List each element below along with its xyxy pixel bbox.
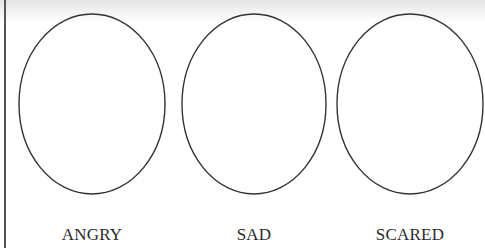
face-oval-sad xyxy=(182,14,326,194)
label-sad: SAD xyxy=(237,225,272,245)
label-angry: ANGRY xyxy=(62,225,123,245)
face-oval-scared xyxy=(337,14,483,194)
face-ovals xyxy=(0,0,485,248)
label-scared: SCARED xyxy=(376,225,444,245)
face-oval-angry xyxy=(19,14,165,194)
